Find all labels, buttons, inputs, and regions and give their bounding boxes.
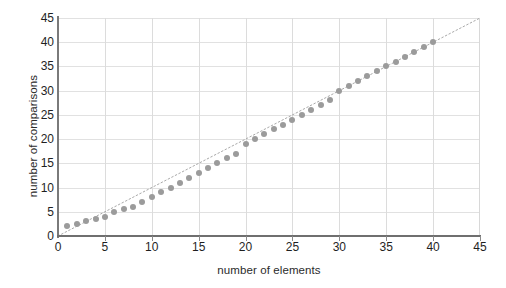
data-point	[355, 78, 361, 84]
data-point	[280, 122, 286, 128]
data-point	[149, 194, 155, 200]
y-axis-tick-labels: 051015202530354045	[6, 0, 54, 288]
x-tick-label: 5	[102, 240, 109, 254]
data-point	[102, 214, 108, 220]
y-tick-label: 0	[8, 229, 54, 243]
x-tick-mark	[339, 236, 340, 241]
x-tick-label: 0	[55, 240, 62, 254]
y-tick-label: 40	[8, 35, 54, 49]
data-point	[168, 185, 174, 191]
data-point	[252, 136, 258, 142]
plot-area	[58, 18, 480, 236]
x-tick-mark	[386, 236, 387, 241]
scatter-chart: number of comparisons 051015202530354045…	[0, 0, 506, 288]
x-tick-label: 15	[192, 240, 205, 254]
data-point	[130, 204, 136, 210]
data-point	[93, 216, 99, 222]
x-tick-label: 35	[380, 240, 393, 254]
x-tick-label: 20	[239, 240, 252, 254]
x-tick-mark	[152, 236, 153, 241]
x-tick-mark	[480, 236, 481, 241]
x-tick-label: 25	[286, 240, 299, 254]
y-tick-label: 20	[8, 132, 54, 146]
data-point	[233, 151, 239, 157]
data-point	[318, 102, 324, 108]
data-point	[74, 221, 80, 227]
data-point	[196, 170, 202, 176]
x-tick-mark	[199, 236, 200, 241]
x-tick-label: 10	[145, 240, 158, 254]
y-tick-label: 10	[8, 181, 54, 195]
x-axis-line	[57, 235, 481, 237]
x-tick-mark	[246, 236, 247, 241]
x-tick-label: 40	[426, 240, 439, 254]
data-point	[121, 206, 127, 212]
data-point	[421, 44, 427, 50]
y-tick-label: 45	[8, 11, 54, 25]
y-tick-label: 5	[8, 205, 54, 219]
y-tick-label: 35	[8, 59, 54, 73]
y-tick-label: 30	[8, 84, 54, 98]
y-axis-line	[57, 16, 59, 238]
y-tick-label: 25	[8, 108, 54, 122]
x-tick-mark	[105, 236, 106, 241]
data-point	[393, 59, 399, 65]
x-axis-title: number of elements	[58, 264, 480, 276]
data-point	[243, 141, 249, 147]
data-point	[177, 180, 183, 186]
x-tick-mark	[433, 236, 434, 241]
data-point	[299, 112, 305, 118]
data-point	[346, 83, 352, 89]
x-tick-label: 45	[473, 240, 486, 254]
data-point	[402, 54, 408, 60]
y-tick-label: 15	[8, 156, 54, 170]
x-tick-mark	[292, 236, 293, 241]
x-tick-label: 30	[333, 240, 346, 254]
data-point	[336, 88, 342, 94]
